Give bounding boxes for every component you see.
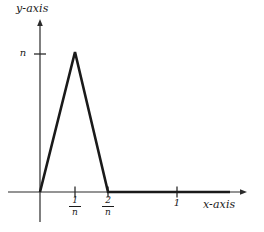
x-tick-label-one: 1 (169, 197, 185, 208)
fraction-denominator: n (97, 207, 119, 217)
y-axis-title: y-axis (16, 2, 48, 15)
x-tick-label-one-over-n: 1 n (64, 196, 86, 217)
x-axis-title: x-axis (203, 198, 235, 211)
y-tick-label-n: n (14, 47, 32, 58)
x-tick-label-two-over-n: 2 n (97, 196, 119, 217)
fraction-denominator: n (64, 207, 86, 217)
fraction-numerator: 1 (64, 196, 86, 206)
fraction-numerator: 2 (97, 196, 119, 206)
